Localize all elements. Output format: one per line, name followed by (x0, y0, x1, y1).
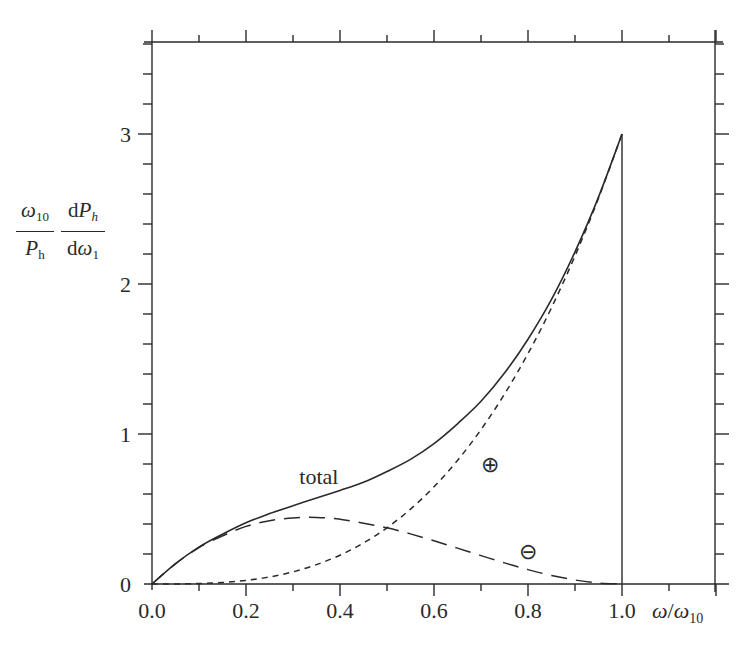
total-label: total (299, 464, 338, 489)
y-axis-label: ω10 Ph dPh dω1 (16, 196, 108, 266)
negative-helicity-curve (152, 517, 622, 584)
d-operator: d (68, 198, 79, 222)
y-label-frac1-numerator: ω10 (16, 196, 54, 232)
subscript-1: 1 (92, 247, 99, 262)
y-label-frac1-denominator: Ph (16, 232, 54, 269)
x-tick-label: 0.8 (514, 598, 542, 623)
data-curves (152, 134, 622, 584)
helicity-distribution-chart: 0.00.20.40.60.81.00123 total⊕⊖ ω/ω10 (0, 0, 747, 651)
subscript-h: h (38, 247, 45, 262)
y-label-frac2-denominator: dω1 (61, 232, 105, 269)
total-curve (152, 134, 622, 584)
d-operator: d (67, 236, 78, 260)
p-symbol: P (25, 236, 38, 260)
x-tick-label: 1.0 (608, 598, 636, 623)
axes-frame (144, 30, 729, 592)
omega-symbol: ω (21, 198, 36, 222)
x-tick-label: 0.4 (326, 598, 354, 623)
axis-ticks (138, 30, 729, 596)
y-tick-label: 2 (120, 272, 131, 297)
positive-helicity-symbol: ⊕ (481, 452, 499, 477)
y-label-fraction-1: ω10 Ph (16, 196, 54, 269)
y-tick-label: 0 (120, 572, 131, 597)
y-tick-label: 1 (120, 422, 131, 447)
negative-helicity-symbol: ⊖ (519, 539, 537, 564)
x-label-omega10: ω (674, 598, 690, 623)
positive-helicity-curve (152, 134, 622, 584)
x-tick-label: 0.0 (138, 598, 166, 623)
x-axis-label: ω/ω10 (652, 598, 703, 626)
x-label-omega: ω (652, 598, 668, 623)
subscript-10: 10 (36, 209, 49, 224)
p-symbol: P (79, 198, 92, 222)
y-label-fraction-2: dPh dω1 (61, 196, 105, 269)
x-tick-label: 0.6 (420, 598, 448, 623)
subscript-h-italic: h (91, 209, 98, 224)
y-label-frac2-numerator: dPh (61, 196, 105, 232)
omega-symbol: ω (78, 236, 93, 260)
curve-annotations: total⊕⊖ (299, 452, 537, 564)
x-tick-label: 0.2 (232, 598, 260, 623)
y-tick-label: 3 (120, 122, 131, 147)
x-label-subscript: 10 (689, 611, 703, 626)
